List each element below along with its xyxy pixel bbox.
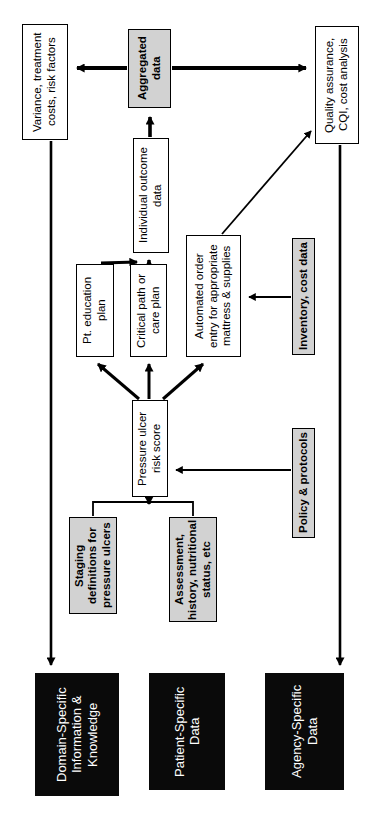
node-staging-definitions-label: Staging definitions for pressure ulcers [73,523,114,609]
edge-staging-join [93,502,193,516]
edge-pressure-ulcer-to-automated-order [163,364,203,399]
edge-pressure-ulcer-to-pt-education [98,364,139,399]
node-policy-protocols[interactable]: Policy & protocols [292,428,315,538]
node-aggregated-data-label: Aggregated data [136,37,163,101]
node-domain-specific[interactable]: Domain-Specific Information & Knowledge [35,673,119,796]
node-automated-order-entry-label: Automated order entry for appropriate ma… [193,244,234,348]
node-staging-definitions[interactable]: Staging definitions for pressure ulcers [69,517,117,614]
node-pressure-ulcer-risk-score[interactable]: Pressure ulcer risk score [132,400,168,497]
node-assessment-history-label: Assessment, history, nutritional status,… [173,519,214,619]
node-individual-outcome-data-label: Individual outcome data [137,148,164,244]
node-critical-path-care-plan-label: Critical path or care plan [135,273,162,347]
node-agency-specific-label: Agency-Specific Data [289,685,320,778]
node-critical-path-care-plan[interactable]: Critical path or care plan [130,264,167,357]
node-automated-order-entry[interactable]: Automated order entry for appropriate ma… [186,235,241,357]
node-domain-specific-label: Domain-Specific Information & Knowledge [54,687,100,782]
node-policy-protocols-label: Policy & protocols [297,433,311,534]
flow-diagram: Variance, treatment costs, risk factors … [0,0,368,821]
node-quality-assurance[interactable]: Quality assurance, CQI, cost analysis [315,26,359,144]
node-patient-specific[interactable]: Patient-Specific Data [149,673,225,790]
node-individual-outcome-data[interactable]: Individual outcome data [133,138,169,253]
node-aggregated-data[interactable]: Aggregated data [128,29,171,108]
node-assessment-history[interactable]: Assessment, history, nutritional status,… [169,517,217,622]
node-quality-assurance-label: Quality assurance, CQI, cost analysis [323,37,350,132]
node-agency-specific[interactable]: Agency-Specific Data [265,673,344,790]
node-inventory-cost-data[interactable]: Inventory, cost data [292,238,315,355]
node-variance-label: Variance, treatment costs, risk factors [31,32,58,132]
node-pt-education-plan-label: Pt. education plan [81,277,108,344]
node-pressure-ulcer-risk-score-label: Pressure ulcer risk score [136,411,163,485]
edge-pt-education-to-individual [101,262,137,263]
node-pt-education-plan[interactable]: Pt. education plan [76,264,114,357]
edge-automated-order-to-quality [222,131,311,234]
node-variance[interactable]: Variance, treatment costs, risk factors [22,24,68,140]
node-inventory-cost-data-label: Inventory, cost data [297,243,311,351]
node-patient-specific-label: Patient-Specific Data [172,686,203,776]
